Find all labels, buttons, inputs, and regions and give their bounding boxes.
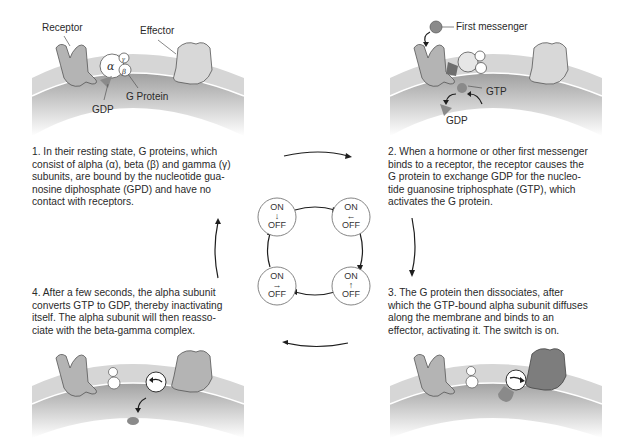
panel-3-illustration [370,338,630,438]
arrow-step2-to-step3 [409,218,415,277]
effector-shape [172,351,212,393]
off-label: OFF [342,289,360,299]
off-label: OFF [342,220,360,230]
arrow-step3-to-step4 [282,340,348,347]
gamma-subunit [109,368,118,377]
off-label: OFF [268,289,286,299]
alpha-subunit [146,372,166,392]
gdp-molecule [127,417,139,425]
panel-4-illustration [0,338,260,438]
switch-cycle: ON ↓ OFF ON ← OFF ON ↑ OFF ON → OFF [255,195,375,310]
arrow-step1-to-step2 [284,152,352,159]
beta-subunit [108,377,120,389]
switch-state-top-left: ON ↓ OFF [258,198,296,236]
switch-state-top-right: ON ← OFF [332,198,370,236]
gamma-subunit [467,367,476,376]
switch-state-bottom-left: ON → OFF [258,267,296,305]
off-label: OFF [268,220,286,230]
beta-subunit [466,376,478,388]
switch-state-bottom-right: ON ↑ OFF [332,267,370,305]
arrow-step4-to-step1 [215,218,221,278]
effector-shape-active [526,349,566,391]
